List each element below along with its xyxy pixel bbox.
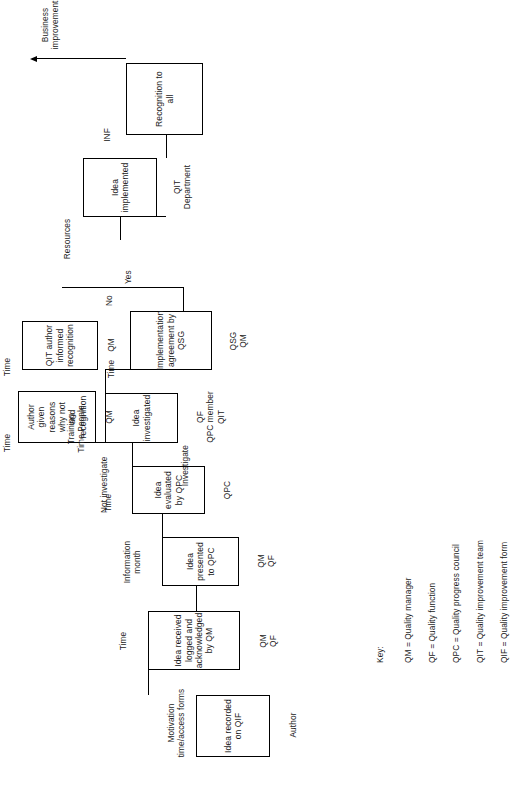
node-label: Idea investigated: [131, 395, 152, 442]
connector-line: [166, 134, 167, 158]
resource-label-qm-1: QM: [104, 389, 114, 445]
resource-label-qpc: QPC: [222, 465, 232, 515]
output-label-business-improvement: Business improvement: [40, 0, 61, 51]
connector-line: [148, 669, 149, 695]
input-label-time-3: Time: [2, 413, 12, 473]
resource-label-qit-department: QIT Department: [172, 149, 193, 225]
resource-label-qf-qpc-qit: QF QPC member QIT: [195, 381, 226, 453]
input-label-inf: INF: [102, 113, 112, 157]
node-label: Recognition to all: [154, 67, 175, 131]
node-idea-investigated[interactable]: Idea investigated: [105, 393, 178, 443]
connector-line: [162, 513, 163, 537]
branch-label-not-investigate: Not investigate: [99, 439, 109, 513]
node-label: QIT author informed recognition: [44, 324, 75, 367]
branch-label-yes: Yes: [123, 258, 133, 284]
node-idea-implemented[interactable]: Idea implemented: [83, 158, 157, 217]
connector-line: [132, 442, 133, 466]
key-entry: QIF = Quality improvement form: [498, 540, 510, 663]
resource-label-qm-2: QM: [106, 317, 116, 373]
node-label: Idea implemented: [110, 162, 131, 213]
node-idea-presented-qpc[interactable]: Idea presented to QPC: [162, 537, 239, 586]
key-entry: QM = Quality manager: [402, 540, 414, 663]
node-label: Idea recorded on QIF: [223, 699, 244, 753]
key-entry: QPC = Quality progress council: [450, 540, 462, 663]
key-legend: Key: QM = Quality manager QF = Quality f…: [362, 540, 514, 663]
connector-line: [120, 216, 121, 240]
input-label-motivation: Motivation time/access forms: [166, 659, 187, 787]
connector-line: [196, 585, 197, 611]
node-label: Implementation agreement by QSG: [155, 311, 186, 371]
input-label-time-5: Time: [2, 337, 12, 397]
resource-label-qm-qf-2: QM QF: [256, 535, 277, 587]
key-entry: QIT = Quality improvement team: [474, 540, 486, 663]
output-arrow-line: [36, 58, 126, 59]
node-qit-author-informed[interactable]: QIT author informed recognition: [22, 321, 98, 370]
resource-label-qm-qf-1: QM QF: [258, 611, 279, 671]
input-label-resources: Resources: [62, 203, 72, 275]
node-idea-evaluated-qpc[interactable]: Idea evaluated by QPC: [132, 466, 205, 514]
branch-label-no: No: [104, 280, 114, 306]
node-recognition-to-all[interactable]: Recognition to all: [126, 63, 203, 135]
input-label-time-1: Time: [118, 611, 128, 671]
node-implementation-agreement-qsg[interactable]: Implementation agreement by QSG: [130, 311, 212, 370]
input-label-information-month: Information month: [122, 523, 143, 601]
node-idea-recorded[interactable]: Idea recorded on QIF: [196, 695, 270, 757]
output-arrow-head: [30, 56, 37, 62]
connector-line: [183, 287, 184, 311]
resource-label-author: Author: [288, 694, 298, 756]
node-idea-received-logged[interactable]: Idea received logged and acknowledged by…: [148, 611, 240, 670]
connector-line: [120, 287, 184, 288]
node-label: Idea presented to QPC: [185, 541, 216, 582]
key-entry: QF = Quality function: [426, 540, 438, 663]
key-title: Key:: [374, 540, 386, 663]
resource-label-qsg-qm: QSG QM: [228, 311, 249, 371]
branch-label-investigate: Investigate: [180, 445, 190, 503]
input-label-training-time-people: Training Time People: [66, 387, 87, 471]
